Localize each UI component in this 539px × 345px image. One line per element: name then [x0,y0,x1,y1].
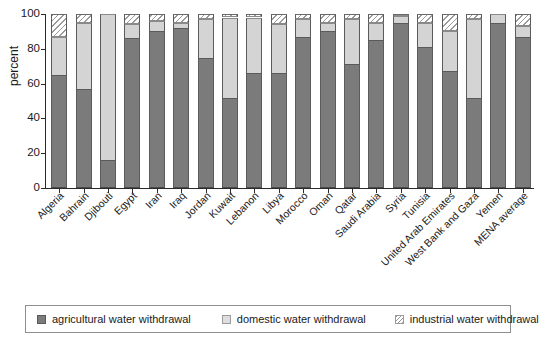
bar[interactable] [51,14,67,188]
bar[interactable] [368,14,384,188]
bar-segment-domestic [344,19,360,64]
y-axis-label-wrap: percent [8,14,22,188]
bar-segment-domestic [100,14,116,160]
y-tick-label: 40 [27,113,40,125]
bar-segment-industrial [246,14,262,17]
bar-segment-domestic [368,23,384,40]
bar-segment-industrial [51,14,67,37]
bar[interactable] [124,14,140,188]
bar-segment-agricultural [51,75,67,188]
bar[interactable] [173,14,189,188]
bar-segment-domestic [442,31,458,71]
legend-item-agricultural: agricultural water withdrawal [37,313,191,325]
bar-segment-industrial [295,14,311,19]
bar-segment-agricultural [198,58,214,189]
industrial-swatch-icon [395,315,404,324]
y-tick-label: 0 [34,182,40,194]
bar-segment-domestic [393,16,409,23]
bar-segment-industrial [417,14,433,23]
bar-segment-domestic [246,18,262,74]
bar-segment-domestic [149,21,165,31]
bar-segment-industrial [149,14,165,21]
bar-segment-industrial [466,14,482,19]
bar-segment-industrial [271,14,287,24]
bar[interactable] [515,14,531,188]
bar-segment-industrial [393,14,409,16]
bar[interactable] [393,14,409,188]
bar-segment-industrial [124,14,140,24]
bar-segment-agricultural [442,71,458,188]
bar-segment-industrial [515,14,531,26]
legend: agricultural water withdrawal domestic w… [25,305,511,333]
bar-segment-domestic [466,19,482,97]
bar-segment-domestic [320,23,336,32]
bar-segment-agricultural [76,89,92,188]
bar-segment-industrial [222,14,238,17]
y-axis-label: percent [7,46,21,86]
bar[interactable] [490,14,506,188]
bar-segment-industrial [173,14,189,23]
bar-segment-agricultural [173,28,189,188]
bar-segment-domestic [295,19,311,36]
bar-segment-domestic [222,18,238,98]
bar-segment-domestic [124,24,140,38]
bar[interactable] [295,14,311,188]
legend-item-industrial: industrial water withdrawal [395,313,539,325]
legend-label-industrial: industrial water withdrawal [410,313,539,325]
bar[interactable] [417,14,433,188]
bar[interactable] [271,14,287,188]
bar-segment-industrial [198,14,214,19]
bar-segment-agricultural [466,98,482,188]
domestic-swatch-icon [222,315,231,324]
bars-container [45,14,533,188]
bar[interactable] [198,14,214,188]
bar-segment-domestic [198,19,214,57]
bar[interactable] [466,14,482,188]
bar[interactable] [222,14,238,188]
bar-segment-agricultural [100,160,116,188]
bar-segment-agricultural [246,73,262,188]
bar-segment-agricultural [222,98,238,188]
legend-item-domestic: domestic water withdrawal [222,313,366,325]
bar-segment-agricultural [368,40,384,188]
bar-segment-industrial [442,14,458,31]
bar-segment-industrial [320,14,336,23]
y-tick-label: 60 [27,78,40,90]
bar-segment-agricultural [295,37,311,188]
agri-swatch-icon [37,315,46,324]
bar-segment-agricultural [320,31,336,188]
bar-segment-domestic [51,37,67,75]
bar[interactable] [76,14,92,188]
bar-segment-domestic [515,26,531,36]
bar-segment-agricultural [515,37,531,188]
bar-segment-domestic [76,23,92,89]
y-tick-label: 100 [21,8,40,20]
bar-segment-agricultural [124,38,140,188]
bar[interactable] [442,14,458,188]
bar-segment-industrial [344,14,360,19]
bar[interactable] [149,14,165,188]
x-tick-label: Iran [147,194,168,215]
bar-segment-domestic [417,23,433,47]
bar-segment-industrial [368,14,384,23]
bar[interactable] [246,14,262,188]
x-tick-label: Egypt [116,194,143,221]
bar-segment-domestic [271,24,287,73]
bar-segment-domestic [490,14,506,23]
x-axis-labels: AlgeriaBahrainDjiboutiEgyptIranIraqJorda… [45,194,534,290]
bar-segment-agricultural [417,47,433,188]
bar-segment-industrial [76,14,92,23]
bar-segment-agricultural [149,31,165,188]
bar[interactable] [320,14,336,188]
legend-label-agricultural: agricultural water withdrawal [52,313,191,325]
legend-label-domestic: domestic water withdrawal [237,313,366,325]
bar-segment-agricultural [344,64,360,188]
bar-segment-agricultural [393,23,409,188]
bar[interactable] [100,14,116,188]
y-tick-label: 20 [27,147,40,159]
bar[interactable] [344,14,360,188]
y-tick-label: 80 [27,43,40,55]
bar-segment-agricultural [490,23,506,188]
bar-segment-agricultural [271,73,287,188]
